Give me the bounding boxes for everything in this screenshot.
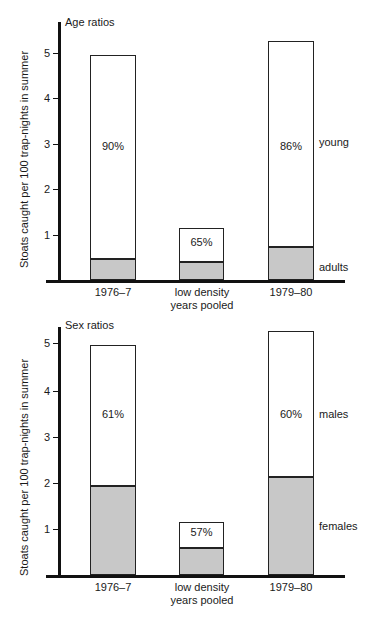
y-tick-label-3-age: 3	[32, 139, 50, 150]
y-tick-3-sex	[53, 437, 58, 438]
y-tick-label-5-age: 5	[32, 48, 50, 59]
y-tick-label-3-sex: 3	[32, 432, 50, 443]
y-tick-label-1-sex: 1	[32, 524, 50, 535]
plot-area-sex: Stoats caught per 100 trap-nights in sum…	[0, 313, 376, 626]
y-tick-label-2-sex: 2	[32, 478, 50, 489]
panel-title-age: Age ratios	[65, 16, 115, 28]
x-category-label-1979-80-age: 1979–80	[251, 286, 331, 299]
x-category-label-1976-7-age: 1976–7	[73, 286, 153, 299]
series-label-adults: adults	[319, 261, 348, 273]
y-tick-2-sex	[53, 483, 58, 484]
x-category-label-1976-7-sex: 1976–7	[73, 581, 153, 594]
x-category-label-1979-80-sex: 1979–80	[251, 581, 331, 594]
y-tick-label-4-sex: 4	[32, 386, 50, 397]
bar-sex-1979-80	[268, 331, 314, 575]
y-tick-label-4-age: 4	[32, 93, 50, 104]
y-axis-title-age: Stoats caught per 100 trap-nights in sum…	[18, 51, 30, 268]
bar-percent-label-sex-1976-7: 61%	[90, 408, 136, 420]
bar-segment-adults-1979-80	[268, 247, 314, 280]
chart-panel-age-ratios: Stoats caught per 100 trap-nights in sum…	[0, 0, 376, 313]
bar-age-1976-7	[90, 55, 136, 280]
series-label-males: males	[319, 408, 348, 420]
x-category-label-low-density-sex: low density	[160, 581, 244, 594]
bar-percent-label-age-low-density: 65%	[179, 236, 224, 248]
y-axis-title-sex: Stoats caught per 100 trap-nights in sum…	[18, 359, 30, 576]
bar-segment-females-1979-80	[268, 477, 314, 575]
x-category-label-low-density-age-line2: years pooled	[160, 299, 244, 312]
x-axis-line-age	[46, 280, 345, 283]
y-tick-label-5-sex: 5	[32, 338, 50, 349]
y-tick-3-age	[53, 144, 58, 145]
x-axis-line-sex	[46, 575, 345, 578]
y-tick-5-sex	[53, 343, 58, 344]
x-category-label-low-density-age: low density	[160, 286, 244, 299]
series-label-young: young	[319, 136, 349, 148]
y-tick-5-age	[53, 53, 58, 54]
y-tick-1-sex	[53, 529, 58, 530]
bar-segment-young-1976-7	[90, 55, 136, 259]
series-label-females: females	[319, 520, 358, 532]
bar-segment-females-1976-7	[90, 486, 136, 575]
plot-area-age: Stoats caught per 100 trap-nights in sum…	[0, 0, 376, 313]
y-tick-4-sex	[53, 391, 58, 392]
y-tick-1-age	[53, 235, 58, 236]
y-tick-label-1-age: 1	[32, 230, 50, 241]
bar-percent-label-age-1976-7: 90%	[90, 140, 136, 152]
x-category-label-low-density-sex-line2: years pooled	[160, 594, 244, 607]
bar-percent-label-sex-low-density: 57%	[179, 526, 224, 538]
y-axis-line-age	[58, 22, 61, 283]
bar-sex-1976-7	[90, 345, 136, 575]
y-axis-line-sex	[58, 327, 61, 575]
bar-segment-females-low-density	[179, 548, 224, 575]
y-tick-4-age	[53, 98, 58, 99]
bar-age-1979-80	[268, 41, 314, 280]
y-tick-2-age	[53, 189, 58, 190]
bar-segment-adults-low-density	[179, 262, 224, 280]
panel-title-sex: Sex ratios	[65, 319, 114, 331]
bar-percent-label-sex-1979-80: 60%	[268, 408, 314, 420]
bar-percent-label-age-1979-80: 86%	[268, 140, 314, 152]
bar-segment-adults-1976-7	[90, 259, 136, 280]
chart-panel-sex-ratios: Stoats caught per 100 trap-nights in sum…	[0, 313, 376, 626]
bar-segment-males-1979-80	[268, 331, 314, 477]
y-tick-label-2-age: 2	[32, 184, 50, 195]
